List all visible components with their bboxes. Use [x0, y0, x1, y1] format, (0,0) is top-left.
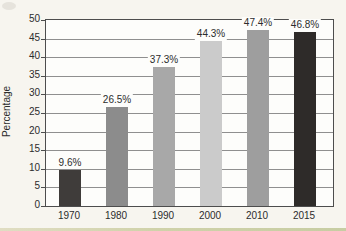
- bar-2015: [294, 32, 316, 206]
- bar-1970: [59, 170, 81, 206]
- y-axis-tick-label: 25: [2, 106, 40, 118]
- x-axis-tick-label: 2000: [188, 210, 232, 222]
- plot-area: 9.6%26.5%37.3%44.3%47.4%46.8%: [45, 19, 334, 207]
- y-axis-tick: [41, 150, 45, 151]
- y-axis-tick: [41, 39, 45, 40]
- scan-line-artifact: [0, 228, 346, 231]
- bar-1980: [106, 107, 128, 206]
- gridline: [46, 57, 333, 58]
- gridline: [46, 39, 333, 40]
- y-axis-tick: [41, 132, 45, 133]
- y-axis-tick-label: 10: [2, 162, 40, 174]
- y-axis-tick-label: 30: [2, 87, 40, 99]
- y-axis-tick-label: 45: [2, 32, 40, 44]
- gridline: [46, 76, 333, 77]
- x-axis-tick-label: 1990: [141, 210, 185, 222]
- bar-2010: [247, 30, 269, 206]
- gridline: [46, 132, 333, 133]
- x-axis-tick-label: 2015: [282, 210, 326, 222]
- scan-smudge-artifact: [2, 2, 16, 10]
- y-axis-tick-label: 15: [2, 143, 40, 155]
- bar-chart: Percentage 9.6%26.5%37.3%44.3%47.4%46.8%…: [0, 0, 346, 231]
- gridline: [46, 113, 333, 114]
- bar-value-label: 26.5%: [101, 94, 133, 106]
- bar-value-label: 44.3%: [195, 28, 227, 40]
- y-axis-tick: [41, 20, 45, 21]
- x-axis-tick-label: 2010: [235, 210, 279, 222]
- bar-value-label: 46.8%: [289, 19, 321, 31]
- y-axis-tick: [41, 94, 45, 95]
- x-axis-tick-label: 1970: [47, 210, 91, 222]
- y-axis-tick: [41, 206, 45, 207]
- y-axis-tick-label: 20: [2, 125, 40, 137]
- y-axis-tick-label: 0: [2, 199, 40, 211]
- x-axis-tick-label: 1980: [94, 210, 138, 222]
- y-axis-tick: [41, 57, 45, 58]
- bar-value-label: 47.4%: [242, 17, 274, 29]
- bar-value-label: 9.6%: [57, 157, 84, 169]
- bar-1990: [153, 67, 175, 206]
- y-axis-tick-label: 35: [2, 69, 40, 81]
- y-axis-tick: [41, 169, 45, 170]
- gridline: [46, 150, 333, 151]
- y-axis-tick-label: 5: [2, 180, 40, 192]
- bar-2000: [200, 41, 222, 206]
- gridline: [46, 187, 333, 188]
- bar-value-label: 37.3%: [148, 54, 180, 66]
- y-axis-tick: [41, 113, 45, 114]
- gridline: [46, 94, 333, 95]
- y-axis-tick-label: 50: [2, 13, 40, 25]
- y-axis-tick-label: 40: [2, 50, 40, 62]
- y-axis-tick: [41, 187, 45, 188]
- y-axis-tick: [41, 76, 45, 77]
- gridline: [46, 169, 333, 170]
